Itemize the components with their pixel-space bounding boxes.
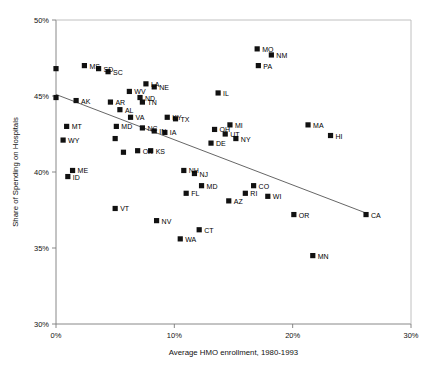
data-point-label: NV: [162, 218, 172, 225]
data-point-label: UT: [230, 131, 240, 138]
data-point-label: AZ: [234, 198, 244, 205]
data-point-marker: [65, 174, 70, 179]
data-point-marker: [265, 194, 270, 199]
trend-line: [56, 94, 366, 213]
data-point-label: MA: [313, 122, 324, 129]
data-point-label: IN: [159, 128, 166, 135]
data-point-label: OR: [299, 212, 310, 219]
data-point-label: IL: [223, 90, 229, 97]
data-point-label: OK: [143, 148, 153, 155]
data-point-marker: [255, 46, 260, 51]
data-point-label: MD: [207, 183, 218, 190]
data-point-label: WY: [68, 137, 80, 144]
data-point-marker: [114, 124, 119, 129]
axis-titles: Average HMO enrollment, 1980-1993Share o…: [11, 117, 298, 357]
data-point-marker: [256, 63, 261, 68]
data-point-marker: [181, 168, 186, 173]
data-point-marker: [208, 141, 213, 146]
data-point-marker: [70, 168, 75, 173]
data-point-label: NJ: [199, 171, 208, 178]
data-point-label: MS: [89, 63, 100, 70]
y-tick-label: 45%: [34, 92, 49, 101]
data-point-label: MD: [121, 123, 132, 130]
data-point-marker: [269, 52, 274, 57]
data-point-label: HI: [336, 133, 343, 140]
data-point-label: CO: [259, 183, 270, 190]
data-point-marker: [143, 81, 148, 86]
chart-canvas: 30%35%40%45%50%0%10%20%30% MSSDSCMONMPAL…: [0, 0, 432, 383]
data-point-marker: [53, 66, 58, 71]
data-point-marker: [226, 198, 231, 203]
data-point-marker: [178, 236, 183, 241]
data-point-label: SD: [104, 66, 114, 73]
data-point-marker: [64, 124, 69, 129]
data-point-marker: [291, 212, 296, 217]
scatter-chart-figure: 30%35%40%45%50%0%10%20%30% MSSDSCMONMPAL…: [0, 0, 432, 383]
y-tick-label: 30%: [34, 320, 49, 329]
y-tick-label: 50%: [34, 16, 49, 25]
data-point-label: CA: [371, 212, 381, 219]
data-point-label: VT: [120, 205, 130, 212]
data-point-marker: [117, 107, 122, 112]
data-point-marker: [53, 95, 58, 100]
data-point-label: MI: [235, 122, 243, 129]
data-point-marker: [128, 115, 133, 120]
data-point-label: NE: [159, 84, 169, 91]
data-point-marker: [82, 63, 87, 68]
data-point-label: OH: [220, 126, 231, 133]
data-point-marker: [216, 90, 221, 95]
data-point-label: NH: [189, 167, 199, 174]
data-point-marker: [113, 206, 118, 211]
data-point-label: VA: [136, 114, 145, 121]
data-point-marker: [61, 137, 66, 142]
data-point-marker: [197, 227, 202, 232]
data-point-marker: [121, 150, 126, 155]
data-point-marker: [184, 191, 189, 196]
data-point-marker: [310, 253, 315, 258]
data-point-label: AK: [81, 98, 91, 105]
data-point-marker: [154, 218, 159, 223]
data-point-marker: [328, 133, 333, 138]
x-tick-label: 30%: [403, 331, 418, 340]
data-point-marker: [199, 183, 204, 188]
data-point-marker: [135, 148, 140, 153]
data-point-marker: [165, 115, 170, 120]
data-point-label: RI: [250, 190, 257, 197]
data-point-label: CT: [204, 227, 214, 234]
data-point-marker: [127, 89, 132, 94]
data-point-marker: [140, 125, 145, 130]
data-point-marker: [108, 99, 113, 104]
data-point-label: AL: [125, 107, 134, 114]
data-point-label: DE: [216, 140, 226, 147]
data-point-label: KS: [156, 148, 166, 155]
data-point-label: TX: [181, 116, 190, 123]
regression-line: [56, 94, 366, 213]
data-point-marker: [113, 136, 118, 141]
data-point-label: ID: [73, 174, 80, 181]
data-point-label: WA: [185, 236, 196, 243]
y-tick-label: 40%: [34, 168, 49, 177]
data-point-marker: [137, 95, 142, 100]
x-axis-title: Average HMO enrollment, 1980-1993: [169, 348, 298, 357]
data-point-label: NM: [276, 52, 287, 59]
x-tick-label: 10%: [167, 331, 182, 340]
data-point-label: FL: [191, 190, 199, 197]
data-point-label: PA: [263, 63, 272, 70]
y-tick-label: 35%: [34, 244, 49, 253]
data-point-label: TN: [147, 99, 156, 106]
x-tick-label: 0%: [51, 331, 62, 340]
data-point-marker: [363, 212, 368, 217]
data-point-label: SC: [113, 69, 123, 76]
data-point-label: WI: [273, 193, 282, 200]
data-point-label: MN: [318, 253, 329, 260]
data-point-label: AR: [115, 99, 125, 106]
y-axis-title: Share of Spending on Hospitals: [11, 117, 20, 227]
data-point-label: MO: [262, 46, 274, 53]
data-point-marker: [74, 98, 79, 103]
data-point-marker: [305, 122, 310, 127]
data-point-marker: [212, 127, 217, 132]
data-point-label: NC: [147, 125, 157, 132]
data-point-label: IA: [170, 129, 177, 136]
point-labels: MSSDSCMONMPALANEWVNDTNAKARALILMTWYMAHIMI…: [68, 46, 381, 260]
data-point-label: NY: [241, 136, 251, 143]
